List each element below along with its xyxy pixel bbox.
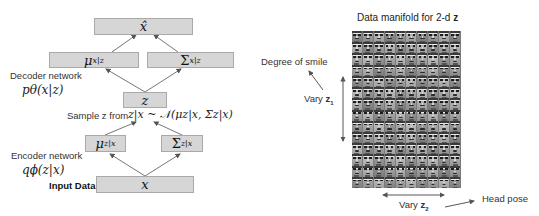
decoder-network-label: Decoder network — [10, 70, 82, 81]
face-thumbnail — [406, 76, 417, 87]
face-thumbnail — [352, 65, 363, 76]
encoder-sigma-box: Σz|x — [161, 135, 203, 152]
face-thumbnail — [385, 143, 396, 154]
face-thumbnail — [352, 53, 363, 64]
face-thumbnail — [352, 177, 363, 188]
sample-label: Sample z from — [67, 110, 128, 121]
face-thumbnail — [428, 76, 439, 87]
face-thumbnail — [352, 31, 363, 42]
face-thumbnail — [406, 42, 417, 53]
input-x-box: x — [96, 176, 194, 193]
face-thumbnail — [352, 132, 363, 143]
face-thumbnail — [417, 53, 428, 64]
face-thumbnail — [363, 154, 374, 165]
face-thumbnail — [374, 65, 385, 76]
face-thumbnail — [417, 31, 428, 42]
encoder-network-label: Encoder network — [11, 150, 82, 161]
manifold-title-text: Data manifold for 2-d — [357, 12, 450, 23]
vary-z1-sub: 1 — [330, 100, 333, 106]
face-thumbnail — [439, 65, 450, 76]
face-thumbnail — [417, 143, 428, 154]
face-thumbnail — [396, 132, 407, 143]
face-thumbnail — [374, 110, 385, 121]
face-thumbnail — [363, 143, 374, 154]
face-thumbnail — [439, 98, 450, 109]
face-thumbnail — [439, 132, 450, 143]
face-thumbnail — [396, 166, 407, 177]
face-thumbnail — [417, 42, 428, 53]
face-thumbnail — [428, 177, 439, 188]
face-thumbnail — [374, 166, 385, 177]
vary-z2-sub: 2 — [425, 206, 428, 212]
face-thumbnail — [352, 76, 363, 87]
encoder-mu-subscript: z|x — [104, 139, 115, 148]
z-symbol: z — [142, 93, 149, 108]
face-thumbnail — [374, 31, 385, 42]
face-thumbnail — [374, 132, 385, 143]
face-thumbnail — [396, 53, 407, 64]
degree-of-smile-label: Degree of smile — [261, 56, 328, 67]
sample-formula: z|x ~ 𝒩(μz|x, Σz|x) — [128, 108, 233, 121]
face-thumbnail — [352, 121, 363, 132]
face-thumbnail — [450, 177, 461, 188]
face-thumbnail — [450, 132, 461, 143]
vary-z2-text: Vary — [399, 199, 418, 210]
face-thumbnail — [428, 154, 439, 165]
vae-figure: x̂ μx|z Σx|z Decoder network pθ(x|z) z S… — [0, 0, 539, 216]
face-thumbnail — [363, 177, 374, 188]
face-thumbnail — [385, 87, 396, 98]
face-thumbnail — [406, 143, 417, 154]
face-thumbnail — [396, 76, 407, 87]
face-thumbnail — [385, 76, 396, 87]
face-thumbnail — [439, 31, 450, 42]
face-thumbnail — [439, 121, 450, 132]
z-box: z — [123, 92, 167, 108]
face-thumbnail — [439, 53, 450, 64]
input-data-label: Input Data — [49, 180, 95, 191]
decoder-mu-box: μx|z — [49, 52, 139, 68]
face-thumbnail — [428, 121, 439, 132]
face-thumbnail — [385, 121, 396, 132]
input-x-symbol: x — [141, 177, 148, 192]
face-thumbnail — [374, 42, 385, 53]
face-thumbnail — [428, 53, 439, 64]
encoder-mu-box: μz|x — [85, 135, 126, 152]
face-thumbnail — [363, 110, 374, 121]
face-thumbnail — [428, 98, 439, 109]
face-thumbnail — [450, 110, 461, 121]
face-thumbnail — [352, 166, 363, 177]
face-thumbnail — [450, 121, 461, 132]
face-thumbnail — [385, 177, 396, 188]
face-thumbnail — [428, 110, 439, 121]
face-thumbnail — [428, 31, 439, 42]
decoder-sigma-symbol: Σ — [180, 53, 189, 68]
decoder-formula: pθ(x|z) — [22, 83, 63, 97]
face-thumbnail — [439, 87, 450, 98]
face-thumbnail — [363, 53, 374, 64]
face-thumbnail — [385, 166, 396, 177]
face-thumbnail — [428, 132, 439, 143]
face-thumbnail — [352, 42, 363, 53]
face-thumbnail — [428, 42, 439, 53]
face-thumbnail — [417, 132, 428, 143]
x-hat-symbol: x̂ — [140, 19, 147, 34]
face-thumbnail — [374, 98, 385, 109]
face-thumbnail — [352, 87, 363, 98]
face-thumbnail — [439, 177, 450, 188]
face-thumbnail — [374, 53, 385, 64]
face-thumbnail — [352, 98, 363, 109]
face-thumbnail — [363, 42, 374, 53]
face-thumbnail — [417, 177, 428, 188]
face-thumbnail — [363, 98, 374, 109]
face-thumbnail — [450, 31, 461, 42]
face-thumbnail — [374, 87, 385, 98]
face-thumbnail — [396, 87, 407, 98]
face-thumbnail — [439, 154, 450, 165]
face-thumbnail — [396, 177, 407, 188]
face-thumbnail — [363, 31, 374, 42]
face-thumbnail — [396, 154, 407, 165]
face-thumbnail — [374, 143, 385, 154]
face-thumbnail — [428, 143, 439, 154]
face-thumbnail — [352, 143, 363, 154]
face-thumbnail — [385, 154, 396, 165]
